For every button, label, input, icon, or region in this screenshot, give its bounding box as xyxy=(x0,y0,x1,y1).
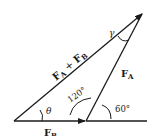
gamma-arc xyxy=(118,36,129,41)
exterior-angle-label: 60° xyxy=(115,104,130,114)
resultant-label: FA + FB xyxy=(50,48,89,84)
gamma-label: γ xyxy=(109,28,115,38)
vector-diagram: FA + FB FA FB θ γ 120° 60° xyxy=(0,0,148,136)
theta-arc xyxy=(40,110,43,121)
exterior-angle-arc xyxy=(102,105,111,119)
fb-label: FB xyxy=(44,127,57,136)
svg-text:FA + FB: FA + FB xyxy=(50,48,89,84)
theta-label: θ xyxy=(46,106,52,116)
fa-label: FA xyxy=(121,68,134,81)
interior-angle-label: 120° xyxy=(65,85,88,105)
